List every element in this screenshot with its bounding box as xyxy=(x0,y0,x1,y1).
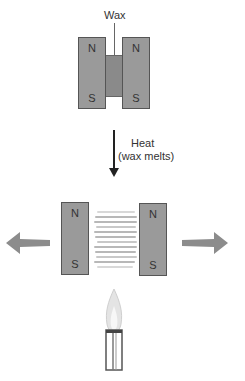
top-left-magnet: N S xyxy=(78,37,106,109)
pole-s: S xyxy=(140,259,166,271)
pole-n: N xyxy=(123,42,149,54)
top-right-magnet: N S xyxy=(122,37,150,109)
pole-s: S xyxy=(62,258,88,270)
bottom-right-magnet: N S xyxy=(139,203,167,276)
heat-label: Heat xyxy=(131,137,154,149)
wax-label: Wax xyxy=(104,9,126,21)
melted-wax-streaks xyxy=(92,208,138,272)
wax-melts-label: (wax melts) xyxy=(118,150,174,162)
pole-n: N xyxy=(62,207,88,219)
pole-n: N xyxy=(79,42,105,54)
pole-s: S xyxy=(123,92,149,104)
wax-block xyxy=(106,55,122,97)
pole-n: N xyxy=(140,208,166,220)
left-arrow-icon xyxy=(4,230,52,256)
bottom-left-magnet: N S xyxy=(61,202,89,275)
right-arrow-icon xyxy=(180,230,230,256)
wax-leader-line xyxy=(114,23,115,55)
burner-flame-icon xyxy=(100,286,128,376)
pole-s: S xyxy=(79,92,105,104)
